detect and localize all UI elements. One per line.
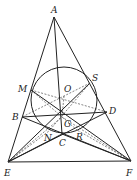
label-C: C xyxy=(59,138,66,148)
label-A: A xyxy=(50,5,58,15)
label-B: B xyxy=(11,112,19,122)
line-FC xyxy=(62,134,131,161)
line-EC xyxy=(8,134,62,162)
dash-EG xyxy=(8,117,62,162)
label-R: R xyxy=(75,132,83,142)
label-G: G xyxy=(64,119,71,129)
label-O: O xyxy=(64,84,72,94)
label-E: E xyxy=(3,168,11,178)
label-N: N xyxy=(43,133,53,143)
geometry-diagram: A M S O B D G N C R E F xyxy=(0,0,137,180)
line-EF xyxy=(8,161,131,162)
label-M: M xyxy=(17,84,28,94)
label-S: S xyxy=(92,73,98,83)
dash-FG xyxy=(62,117,131,161)
label-F: F xyxy=(125,168,133,178)
label-D: D xyxy=(108,106,116,116)
dash-EN xyxy=(8,131,49,162)
